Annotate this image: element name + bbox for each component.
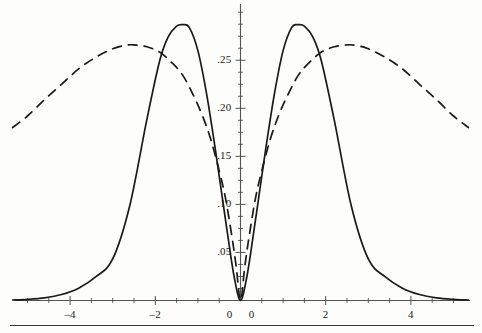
y-tick-label: .25	[201, 53, 232, 65]
y-tick-label: .05	[201, 245, 232, 257]
x-origin-secondary-label: 0	[238, 308, 266, 320]
y-tick-label: .20	[201, 101, 232, 113]
x-tick-label: 2	[312, 308, 340, 320]
x-tick-label: –4	[56, 308, 84, 320]
x-tick-label: –2	[141, 308, 169, 320]
figure-container: .05.10.15.20.25 –4–20240	[0, 0, 482, 333]
y-tick-label: .10	[201, 197, 232, 209]
y-tick-label: .15	[201, 149, 232, 161]
x-tick-label: 4	[397, 308, 425, 320]
bimodal-density-plot	[0, 0, 482, 333]
